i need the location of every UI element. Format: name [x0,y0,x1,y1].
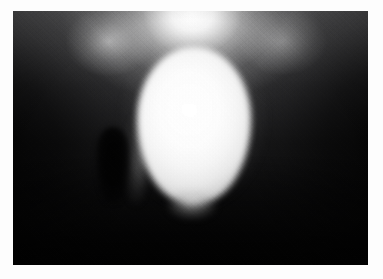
radiograph-plate [13,11,368,265]
catheter-tubular-shadow [96,127,130,203]
radiograph-page [0,0,383,279]
bladder-neck-region [169,194,215,217]
figure-caption [13,266,368,278]
contrast-filled-bladder [137,47,251,204]
